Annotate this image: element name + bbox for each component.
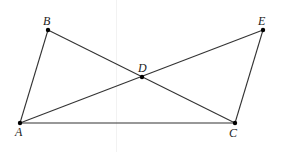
label-E: E bbox=[257, 14, 266, 28]
point-E bbox=[261, 28, 265, 32]
segment-EC bbox=[235, 30, 263, 123]
label-C: C bbox=[229, 126, 238, 140]
point-B bbox=[46, 28, 50, 32]
label-B: B bbox=[43, 14, 51, 28]
label-A: A bbox=[14, 125, 23, 139]
label-D: D bbox=[137, 61, 147, 75]
segment-AB bbox=[20, 30, 48, 123]
geometry-diagram: A B C D E bbox=[0, 0, 281, 152]
point-D bbox=[140, 75, 144, 79]
point-C bbox=[233, 121, 237, 125]
